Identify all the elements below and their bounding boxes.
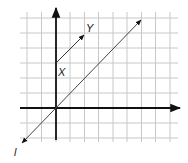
grid xyxy=(20,12,178,142)
coordinate-diagram: X Y l xyxy=(0,0,188,163)
line-l xyxy=(22,20,141,143)
label-x: X xyxy=(57,66,66,78)
label-line-l: l xyxy=(14,146,17,158)
label-y: Y xyxy=(86,22,94,34)
